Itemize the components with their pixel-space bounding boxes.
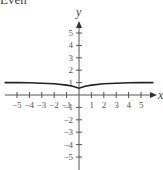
x-tick-label: −4: [24, 100, 34, 110]
x-tick-label: 5: [139, 100, 144, 110]
y-tick-label: −3: [63, 127, 73, 137]
x-tick-label: −3: [37, 100, 47, 110]
x-tick-label: 3: [114, 100, 119, 110]
y-tick-label: 4: [69, 40, 74, 50]
y-axis-label: y: [75, 5, 82, 19]
x-tick-label: −5: [12, 100, 22, 110]
x-tick-label: 2: [102, 100, 107, 110]
y-tick-label: 2: [69, 65, 74, 75]
y-tick-label: −4: [63, 140, 73, 150]
y-tick-label: −5: [63, 152, 73, 162]
x-tick-label: 4: [127, 100, 132, 110]
y-tick-label: −1: [63, 102, 73, 112]
chart: xy −5−4−3−2−112345−5−4−3−2−112345: [0, 0, 163, 170]
x-axis-arrow-icon: [150, 92, 157, 98]
y-tick-label: 3: [69, 53, 74, 63]
x-axis-label: x: [157, 88, 163, 102]
y-tick-label: 5: [69, 28, 74, 38]
x-tick-label: 1: [89, 100, 94, 110]
y-tick-label: −2: [63, 115, 73, 125]
y-axis-arrow-icon: [76, 21, 82, 28]
x-tick-label: −2: [49, 100, 59, 110]
